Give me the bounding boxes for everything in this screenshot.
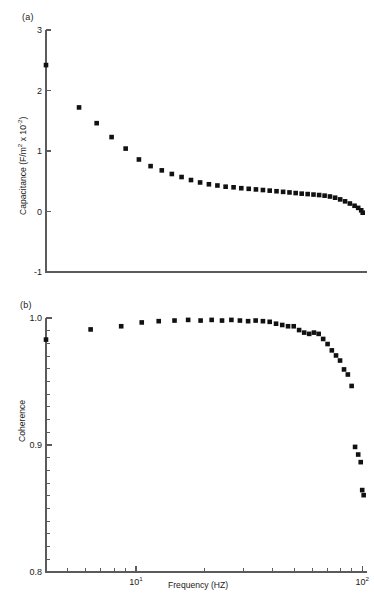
data-point-marker — [360, 488, 365, 493]
data-point-marker — [360, 210, 365, 215]
panel-b-y-tick-labels: 0.80.91.0 — [29, 313, 42, 577]
data-point-marker — [302, 330, 307, 335]
data-point-marker — [231, 185, 236, 190]
data-point-marker — [343, 199, 348, 204]
panel-b-axis-lines — [46, 318, 367, 572]
data-point-marker — [77, 105, 82, 110]
data-point-marker — [348, 201, 353, 206]
data-point-marker — [198, 180, 203, 185]
panel-a-axis-lines — [46, 30, 367, 272]
data-point-marker — [280, 323, 285, 328]
data-point-marker — [267, 188, 272, 193]
data-point-marker — [274, 189, 279, 194]
data-point-marker — [307, 332, 312, 337]
data-point-marker — [321, 337, 326, 342]
data-point-marker — [253, 318, 258, 323]
data-point-marker — [94, 121, 99, 126]
data-point-marker — [254, 187, 259, 192]
data-point-marker — [246, 319, 251, 324]
data-point-marker — [186, 318, 191, 323]
data-point-marker — [198, 318, 203, 323]
data-point-marker — [109, 135, 114, 140]
x-axis-ticks — [46, 566, 362, 572]
data-point-marker — [333, 195, 338, 200]
data-point-marker — [305, 192, 310, 197]
data-point-marker — [229, 318, 234, 323]
data-point-marker — [44, 337, 49, 342]
y-tick-label: -1 — [34, 267, 42, 277]
data-point-marker — [297, 328, 302, 333]
data-point-marker — [267, 320, 272, 325]
data-point-marker — [274, 321, 279, 326]
y-tick-label: 0.9 — [29, 440, 42, 450]
data-point-marker — [239, 186, 244, 191]
data-point-marker — [215, 183, 220, 188]
data-point-marker — [179, 175, 184, 180]
data-point-marker — [317, 193, 322, 198]
data-point-marker — [261, 188, 266, 193]
y-tick-label: 3 — [37, 25, 42, 35]
data-point-marker — [139, 320, 144, 325]
panel-a: (a) Capacitance (F/m2 x 10-2) -10123 — [0, 0, 374, 295]
panel-a-plot-area: -10123 — [0, 0, 374, 295]
data-point-marker — [361, 493, 366, 498]
x-tick-label-exponent: 1 — [139, 575, 143, 582]
data-point-marker — [88, 327, 93, 332]
data-point-marker — [207, 182, 212, 187]
y-tick-label: 1 — [37, 146, 42, 156]
y-tick-label: 0 — [37, 207, 42, 217]
data-point-marker — [287, 190, 292, 195]
data-point-marker — [123, 146, 128, 151]
data-point-marker — [159, 168, 164, 173]
data-point-marker — [119, 324, 124, 329]
data-point-marker — [44, 63, 49, 68]
x-tick-label-exponent: 2 — [365, 575, 369, 582]
data-point-marker — [328, 194, 333, 199]
data-point-marker — [223, 184, 228, 189]
data-point-marker — [170, 172, 175, 177]
data-point-marker — [312, 330, 317, 335]
data-point-marker — [261, 319, 266, 324]
data-point-marker — [299, 191, 304, 196]
y-tick-label: 0.8 — [29, 567, 42, 577]
data-point-marker — [358, 460, 363, 465]
data-point-marker — [330, 348, 335, 353]
data-point-marker — [172, 318, 177, 323]
data-point-marker — [246, 187, 251, 192]
data-point-marker — [137, 157, 142, 162]
data-point-marker — [349, 384, 354, 389]
data-point-marker — [148, 164, 153, 169]
panel-a-y-tick-labels: -10123 — [34, 25, 42, 277]
x-axis-tick-labels: 101102 — [129, 575, 369, 587]
data-point-marker — [238, 318, 243, 323]
data-point-marker — [338, 358, 343, 363]
data-point-marker — [291, 324, 296, 329]
data-point-marker — [334, 353, 339, 358]
data-point-marker — [281, 190, 286, 195]
data-point-marker — [209, 318, 214, 323]
x-tick-label: 102 — [355, 575, 369, 587]
data-point-marker — [322, 193, 327, 198]
data-point-marker — [189, 178, 194, 183]
figure-container: (a) Capacitance (F/m2 x 10-2) -10123 (b)… — [0, 0, 374, 606]
data-point-marker — [342, 367, 347, 372]
data-point-marker — [353, 445, 358, 450]
panel-b-plot-area: 0.80.91.0 101102 — [0, 292, 374, 606]
panel-a-data-points — [44, 63, 365, 215]
data-point-marker — [316, 332, 321, 337]
data-point-marker — [338, 197, 343, 202]
data-point-marker — [346, 372, 351, 377]
data-point-marker — [311, 192, 316, 197]
y-tick-label: 1.0 — [29, 313, 42, 323]
data-point-marker — [293, 191, 298, 196]
panel-b-data-points — [44, 318, 366, 498]
y-tick-label: 2 — [37, 86, 42, 96]
x-tick-label: 101 — [129, 575, 143, 587]
data-point-marker — [156, 319, 161, 324]
data-point-marker — [325, 342, 330, 347]
panel-b: (b) Coherence Frequency (HZ) 0.80.91.0 1… — [0, 292, 374, 606]
data-point-marker — [356, 452, 361, 457]
data-point-marker — [286, 324, 291, 329]
data-point-marker — [220, 318, 225, 323]
